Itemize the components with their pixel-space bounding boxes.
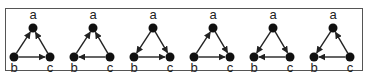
node-a — [269, 24, 278, 33]
node-label-b: b — [190, 60, 197, 75]
edge-b-to-a — [196, 32, 210, 53]
node-a — [89, 24, 98, 33]
edge-a-to-b — [137, 32, 151, 53]
node-label-b: b — [10, 60, 17, 75]
edge-c-to-a — [36, 32, 48, 53]
triad-3: abc — [130, 7, 175, 75]
edge-b-to-a — [16, 32, 30, 53]
node-label-c: c — [287, 60, 294, 75]
edge-b-to-a — [76, 32, 90, 53]
edge-a-to-c — [275, 32, 287, 53]
node-label-c: c — [347, 60, 354, 75]
node-label-a: a — [89, 7, 97, 22]
edge-a-to-b — [317, 32, 331, 53]
node-label-c: c — [47, 60, 54, 75]
triad-5: abc — [250, 7, 295, 75]
node-label-a: a — [29, 7, 37, 22]
node-label-a: a — [149, 7, 157, 22]
node-label-b: b — [130, 60, 137, 75]
edge-a-to-c — [215, 32, 227, 53]
node-label-c: c — [227, 60, 234, 75]
triad-1: abc — [10, 7, 55, 75]
node-label-a: a — [269, 7, 277, 22]
triad-6: abc — [310, 7, 355, 75]
node-label-c: c — [107, 60, 114, 75]
edge-c-to-a — [96, 32, 108, 53]
node-a — [149, 24, 158, 33]
node-a — [29, 24, 38, 33]
node-a — [209, 24, 218, 33]
triad-2: abc — [70, 7, 115, 75]
edge-c-to-a — [336, 32, 348, 53]
node-label-c: c — [167, 60, 174, 75]
edge-a-to-c — [155, 32, 167, 53]
node-a — [329, 24, 338, 33]
triad-diagram: abcabcabcabcabcabc — [0, 0, 370, 79]
triad-4: abc — [190, 7, 235, 75]
node-label-b: b — [70, 60, 77, 75]
edge-a-to-b — [257, 32, 271, 53]
node-label-a: a — [209, 7, 217, 22]
node-label-b: b — [250, 60, 257, 75]
node-label-b: b — [310, 60, 317, 75]
node-label-a: a — [329, 7, 337, 22]
